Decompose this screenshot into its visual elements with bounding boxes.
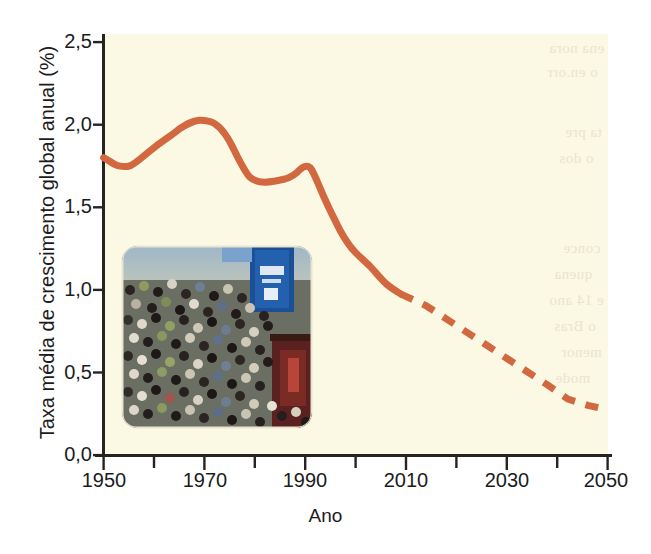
ghost-text-6: e 14 ano [549, 292, 604, 309]
x-major-ticks [104, 455, 608, 470]
ghost-text-1: o en.orr [547, 64, 598, 81]
x-tick-label-2030: 2030 [467, 470, 547, 490]
ghost-text-7: o Bras [554, 318, 596, 335]
ghost-text-3: o dos [559, 150, 594, 167]
x-tick-label-1950: 1950 [64, 470, 144, 490]
x-minor-ticks [154, 455, 557, 468]
chart-figure: ena nora o en.orr ta pre o dos conce que… [0, 0, 651, 554]
ghost-text-9: mode [555, 370, 590, 387]
y-ticks [93, 42, 103, 455]
x-tick-label-2050: 2050 [566, 470, 646, 490]
ghost-text-8: menor [561, 344, 602, 361]
y-axis-title: Taxa média de crescimento global anual (… [36, 33, 59, 453]
ghost-text-5: quena [554, 266, 592, 283]
ghost-text-2: ta pre [565, 124, 602, 141]
ghost-text-0: ena nora [549, 40, 604, 57]
inset-photo-crowd [122, 246, 312, 428]
ghost-text-4: conce [563, 240, 600, 257]
x-tick-label-1990: 1990 [265, 470, 345, 490]
x-tick-label-1970: 1970 [165, 470, 245, 490]
x-tick-label-2010: 2010 [366, 470, 446, 490]
x-tick-labels: 1950 1970 1990 2010 2030 2050 [0, 470, 651, 498]
x-axis-title: Ano [0, 505, 651, 527]
